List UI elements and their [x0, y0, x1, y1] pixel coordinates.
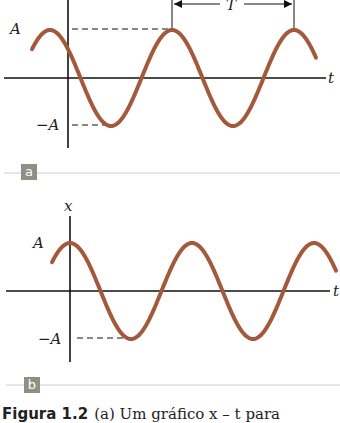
t-axis-label: t: [333, 282, 340, 300]
panel-tag-a: a: [21, 164, 37, 180]
panel-a-graph: A −A t T: [4, 0, 335, 148]
figure-caption: Figura 1.2(a) Um gráfico x – t para: [2, 405, 280, 423]
amplitude-label-top: A: [31, 234, 44, 252]
x-axis-label: x: [64, 197, 73, 215]
caption-text: (a) Um gráfico x – t para: [94, 405, 280, 423]
arrowhead-right-icon: [284, 0, 292, 8]
amplitude-label-bottom: −A: [38, 330, 62, 348]
figure-number: Figura 1.2: [2, 405, 88, 423]
panel-tag-b: b: [24, 377, 40, 393]
t-axis-label: t: [328, 69, 335, 87]
period-label: T: [226, 0, 237, 14]
arrowhead-left-icon: [174, 0, 182, 8]
panel-b-graph: x A −A t: [6, 197, 340, 362]
amplitude-label-top: A: [8, 20, 21, 38]
amplitude-label-bottom: −A: [36, 116, 60, 134]
